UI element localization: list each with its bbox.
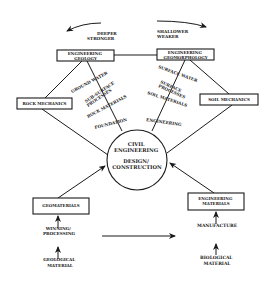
geomaterials-to-center-arrow (58, 166, 105, 198)
svg-text:ENGINEERING GEOMORPHOLOG: ENGINEERING GEOMORPHOLOGY (163, 50, 207, 60)
civil-engineering-circle: CIVIL ENGINEERING DESIGN/ CONSTRUCTION (107, 130, 167, 190)
deeper-arrow (67, 23, 101, 31)
geological-material-label: GEOLOGICAL MATERIAL (43, 257, 77, 268)
engineering-geology-box: ENGINEERING GEOLOGY (57, 50, 114, 61)
engineering-materials-box: ENGINEERING MATERIALS (188, 193, 244, 210)
svg-text:ENGINEERING MATERIALS: ENGINEERING MATERIALS (198, 196, 233, 206)
engineering-geomorphology-box: ENGINEERING GEOMORPHOLOGY (157, 49, 214, 60)
biological-material-label: BIOLOGICAL MATERIAL (200, 255, 234, 266)
geo-engineering-diagram: DEEPER STRONGER SHALLOWER WEAKER ENGINEE… (0, 0, 272, 285)
svg-text:SOIL MECHANICS: SOIL MECHANICS (208, 97, 250, 102)
right-branch-labels: SURFACE WATER SURFACE PROCESSES SOIL MAT… (146, 64, 199, 127)
deeper-label: DEEPER STRONGER (87, 31, 118, 41)
shallower-arrow (157, 21, 206, 27)
geomaterials-box: GEOMATERIALS (33, 198, 89, 214)
svg-text:ENGINEERING: ENGINEERING (146, 117, 182, 127)
svg-text:FOUNDATION: FOUNDATION (94, 117, 128, 130)
svg-text:ROCK MECHANICS: ROCK MECHANICS (22, 101, 66, 106)
shallower-label: SHALLOWER WEAKER (156, 29, 190, 39)
rock-to-center-line (42, 109, 108, 155)
manufacture-label: MANUFACTURE (197, 223, 238, 228)
geology-to-rock-line (45, 61, 82, 98)
soil-mechanics-box: SOIL MECHANICS (200, 94, 258, 105)
left-branch-labels: GROUND WATER SUB-SURFACE PROCESSES ROCK … (70, 70, 128, 130)
soil-to-center-line (167, 105, 232, 153)
winning-processing-label: WINNING/ PROCESSING (43, 226, 76, 236)
rock-mechanics-box: ROCK MECHANICS (17, 98, 72, 109)
engmaterials-to-center-arrow (170, 163, 214, 193)
svg-text:GEOMATERIALS: GEOMATERIALS (42, 203, 79, 208)
